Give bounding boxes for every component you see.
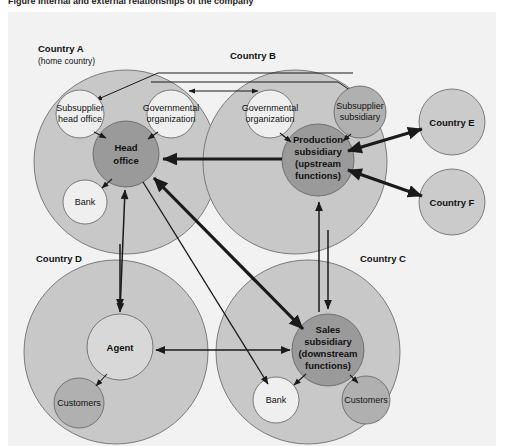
entity-label-bank-a: Bank [75,197,96,207]
country-label-c: Country C [360,253,406,264]
entity-label-subsupplier-subsidiary-2: subsidiary [340,112,381,122]
entity-label-sales-subsidiary-4: functions) [305,360,351,371]
entity-label-production-subsidiary-3: (upstream [295,158,341,169]
entity-label-customers-d: Customers [57,398,101,408]
country-label-b: Country B [230,50,276,61]
country-label-a: Country A [38,43,84,54]
figure-stage: Figure Internal and external relationshi… [0,0,513,446]
entity-label-sales-subsidiary-3: (downstream [298,348,357,359]
entity-label-gov-a-1: Governmental [143,103,200,113]
network-diagram: Country A (home country) Country B Count… [8,12,496,446]
entity-label-sales-subsidiary-2: subsidiary [304,336,352,347]
entity-label-gov-b-1: Governmental [242,103,299,113]
country-label-d: Country D [36,253,82,264]
entity-label-subsupplier-head-office-1: Subsupplier [56,103,104,113]
figure-caption: Figure Internal and external relationshi… [8,0,254,8]
entity-label-subsupplier-subsidiary-1: Subsupplier [336,101,384,111]
entity-label-production-subsidiary-1: Production [293,134,343,145]
country-label-f: Country F [430,197,475,208]
country-sublabel-a: (home country) [38,56,95,66]
entity-label-agent: Agent [107,342,135,353]
entity-head-office[interactable] [93,121,159,187]
entity-label-head-office-2: office [113,155,138,166]
entity-label-gov-a-2: organization [146,114,195,124]
entity-label-customers-c: Customers [344,395,388,405]
entity-label-production-subsidiary-2: subsidiary [294,146,342,157]
entity-label-subsupplier-head-office-2: head office [58,114,102,124]
country-label-e: Country E [429,117,474,128]
entity-label-head-office-1: Head [114,142,137,153]
entity-label-sales-subsidiary-1: Sales [316,324,341,335]
entity-label-bank-c: Bank [266,395,287,405]
satellite-circles [419,89,485,235]
entity-label-production-subsidiary-4: functions) [295,170,341,181]
figure-panel: Country A (home country) Country B Count… [8,12,496,446]
entity-label-gov-b-2: organization [245,114,294,124]
